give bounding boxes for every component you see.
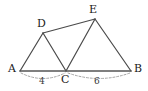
segment-e-b — [95, 19, 131, 71]
segment-d-e — [43, 19, 95, 33]
segment-c-e — [66, 19, 95, 71]
segment-d-c — [43, 33, 66, 71]
vertex-label-e: E — [89, 4, 97, 15]
vertex-label-c: C — [61, 74, 69, 85]
measure-label-ac: 4 — [39, 77, 45, 86]
segment-a-d — [20, 33, 43, 71]
vertex-label-d: D — [37, 18, 46, 29]
geometry-figure: A B C D E 4 6 — [0, 0, 148, 91]
vertex-label-b: B — [134, 63, 142, 74]
measure-label-cb: 6 — [94, 77, 100, 86]
vertex-label-a: A — [8, 63, 16, 74]
geometry-canvas — [0, 0, 148, 91]
